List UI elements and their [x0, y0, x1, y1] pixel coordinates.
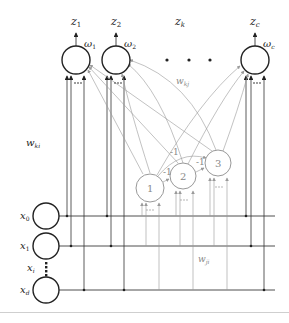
input-bus-lines-light [140, 216, 275, 246]
output-label-z2: z2 [110, 15, 121, 29]
output-label-z1: z1 [70, 15, 81, 29]
input-label-xd: xd [20, 284, 30, 296]
wki-connections [67, 76, 264, 290]
hidden-label-3: 3 [215, 158, 221, 169]
inhibitory-label-1-3: -1 [170, 147, 179, 157]
input-label-x0: x0 [20, 210, 30, 222]
unit-label-omega1: ω1 [84, 38, 96, 50]
diagram-svg: z1 z2 zk zc ω1 ω2 ωc 1 2 3 -1 -1 -1 wki … [0, 0, 289, 323]
inhibitory-label-2-3: -1 [196, 157, 205, 167]
input-unit-x0 [33, 203, 59, 229]
input-unit-x1 [33, 233, 59, 259]
bottom-divider [0, 312, 289, 313]
input-label-x1: x1 [20, 240, 29, 252]
junction-dots [66, 215, 266, 292]
output-label-zc: zc [249, 15, 260, 29]
input-label-xi: xi [27, 262, 35, 274]
output-label-zk: zk [174, 15, 185, 29]
unit-label-omegac: ωc [263, 38, 275, 50]
input-bus-lines [59, 216, 275, 290]
network-diagram: z1 z2 zk zc ω1 ω2 ωc 1 2 3 -1 -1 -1 wki … [0, 0, 289, 323]
unit-label-omega2: ω2 [124, 38, 136, 50]
input-vertical-ellipsis [45, 262, 47, 276]
input-unit-xd [33, 277, 59, 303]
output-ellipsis-dots [165, 58, 211, 61]
hidden-label-1: 1 [147, 183, 153, 194]
weight-label-wki: wki [26, 137, 40, 149]
output-input-ellipsis [74, 82, 261, 84]
hidden-label-2: 2 [180, 171, 186, 182]
weight-label-wji: wji [198, 254, 210, 266]
inhibitory-label-1-2: -1 [163, 167, 172, 177]
weight-label-wkj: wkj [176, 76, 189, 88]
